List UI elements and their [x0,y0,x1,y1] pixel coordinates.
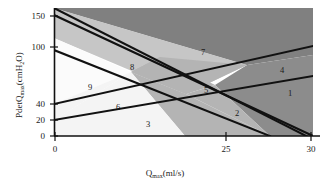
x-axis-title-tail: (ml/s) [163,168,185,178]
chart-canvas: 150 100 40 20 0 0 25 30 1 2 3 4 5 6 7 8 … [0,0,329,184]
region-label-6: 6 [116,102,120,112]
x-axis-title: Qmax(ml/s) [146,168,184,179]
y-axis-title-tail: (cmH [14,64,24,85]
nomogram-figure: 150 100 40 20 0 0 25 30 1 2 3 4 5 6 7 8 … [0,0,329,184]
x-tick-label-25: 25 [222,144,232,154]
y-tick-label-150: 150 [32,11,46,21]
region-label-7: 7 [201,47,205,57]
y-axis-title: PdetQmax(cmH2O) [14,52,25,118]
x-tick-label-30: 30 [307,144,317,154]
region-label-1: 1 [288,88,292,98]
y-tick-label-20: 20 [36,115,46,125]
region-label-2: 2 [235,108,239,118]
y-tick-label-100: 100 [32,42,46,52]
y-axis-title-main: PdetQ [14,95,24,118]
y-axis-title-sub: max [19,85,25,95]
y-tick-label-0: 0 [41,131,46,141]
region-label-8: 8 [130,62,134,72]
region-shading-group [54,8,320,143]
y-axis-title-tail2: O) [14,52,24,62]
y-tick-label-40: 40 [36,99,46,109]
x-tick-label-0: 0 [53,144,58,154]
region-label-9: 9 [88,82,92,92]
x-axis-title-sub: max [152,173,162,179]
region-label-5: 5 [204,85,208,95]
region-label-3: 3 [146,119,150,129]
y-axis-title-group: PdetQmax(cmH2O) [14,52,25,118]
